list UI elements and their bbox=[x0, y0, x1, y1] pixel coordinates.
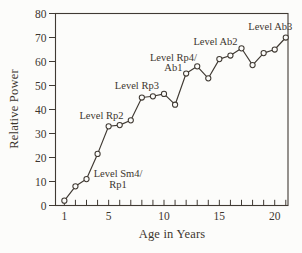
y-axis-title: Relative Power bbox=[7, 13, 22, 205]
y-axis-tick-label: 20 bbox=[35, 152, 47, 164]
level-annotation: Level Sm4/Rp1 bbox=[94, 168, 143, 190]
data-point-marker bbox=[84, 177, 89, 182]
y-axis-tick-label: 0 bbox=[41, 200, 47, 212]
data-point-marker bbox=[172, 102, 177, 107]
level-annotation: Level Rp3 bbox=[115, 80, 159, 91]
y-axis-tick-label: 30 bbox=[35, 128, 47, 140]
x-axis-tick-label: 1 bbox=[61, 210, 67, 222]
data-point-marker bbox=[161, 91, 166, 96]
y-axis-tick-label: 70 bbox=[35, 32, 47, 44]
y-axis-tick-label: 10 bbox=[35, 176, 47, 188]
x-axis-tick-label: 15 bbox=[214, 210, 226, 222]
level-annotation: Level Rp4/Ab1 bbox=[150, 52, 197, 74]
data-point-marker bbox=[206, 76, 211, 81]
level-annotation: Level Rp2 bbox=[79, 110, 123, 121]
data-point-marker bbox=[128, 118, 133, 123]
x-axis-tick-label: 5 bbox=[106, 210, 112, 222]
data-point-marker bbox=[250, 63, 255, 68]
level-annotation: Level Ab2 bbox=[193, 36, 237, 47]
data-point-marker bbox=[73, 184, 78, 189]
x-axis-title: Age in Years bbox=[56, 227, 288, 242]
level-annotation: Level Ab3 bbox=[248, 21, 292, 32]
y-axis-tick-label: 60 bbox=[35, 56, 47, 68]
y-axis-tick-label: 40 bbox=[35, 104, 47, 116]
x-axis-tick-label: 10 bbox=[158, 210, 170, 222]
data-point-marker bbox=[195, 64, 200, 69]
x-axis-tick-label: 20 bbox=[269, 210, 281, 222]
data-point-marker bbox=[261, 51, 266, 56]
data-point-marker bbox=[95, 151, 100, 156]
y-axis-tick-label: 50 bbox=[35, 80, 47, 92]
line-chart-svg: 1510152001020304050607080Level Sm4/Rp1Le… bbox=[0, 0, 302, 253]
data-point-marker bbox=[217, 57, 222, 62]
data-point-marker bbox=[239, 46, 244, 51]
data-point-marker bbox=[117, 123, 122, 128]
scanned-line-chart-figure: 1510152001020304050607080Level Sm4/Rp1Le… bbox=[0, 0, 302, 253]
data-point-marker bbox=[106, 124, 111, 129]
y-axis-tick-label: 80 bbox=[35, 8, 47, 20]
data-point-marker bbox=[272, 47, 277, 52]
data-point-marker bbox=[184, 71, 189, 76]
data-point-marker bbox=[62, 198, 67, 203]
data-point-marker bbox=[139, 95, 144, 100]
data-point-marker bbox=[228, 53, 233, 58]
data-point-marker bbox=[150, 94, 155, 99]
data-point-marker bbox=[283, 35, 288, 40]
